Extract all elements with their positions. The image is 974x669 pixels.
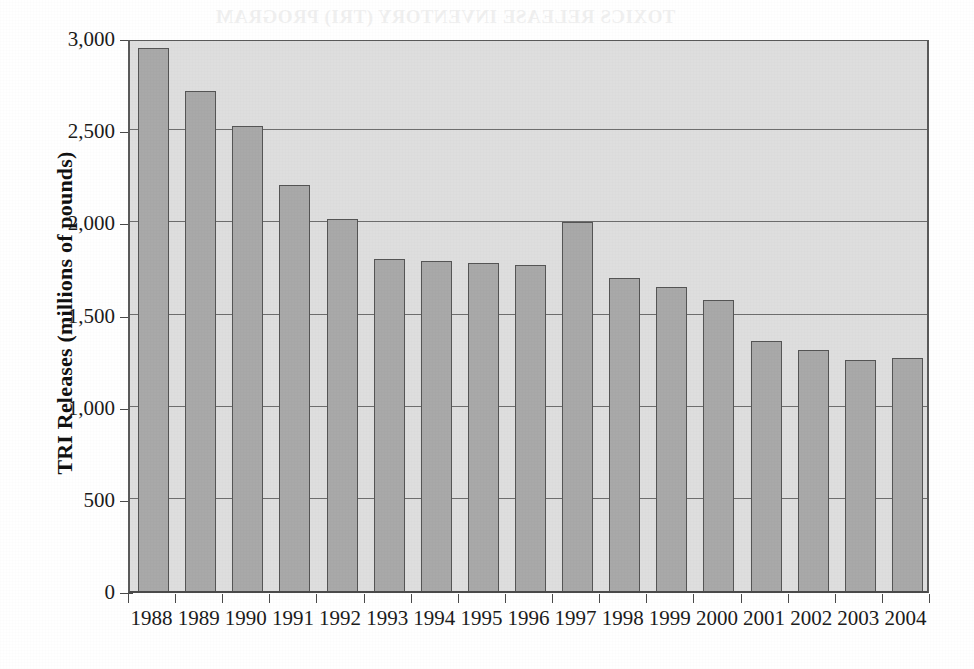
bar-2000 (703, 300, 734, 591)
x-tick-label-2004: 2004 (875, 608, 935, 629)
x-tick-mark-10 (599, 594, 600, 603)
scanned-page: TOXICS RELEASE INVENTORY (TRI) PROGRAM P… (0, 0, 974, 669)
bar-1988 (138, 48, 169, 591)
x-tick-mark-17 (929, 594, 930, 603)
bar-1991 (279, 185, 310, 591)
x-tick-mark-8 (505, 594, 506, 603)
x-tick-mark-6 (411, 594, 412, 603)
bar-1999 (656, 287, 687, 591)
x-tick-mark-14 (788, 594, 789, 603)
x-tick-mark-7 (458, 594, 459, 603)
bar-2002 (798, 350, 829, 591)
x-tick-mark-5 (364, 594, 365, 603)
x-tick-mark-11 (646, 594, 647, 603)
bar-1998 (609, 278, 640, 591)
bars-group (130, 41, 927, 591)
bar-1995 (468, 263, 499, 591)
bar-1989 (185, 91, 216, 591)
x-tick-mark-13 (741, 594, 742, 603)
x-tick-mark-9 (552, 594, 553, 603)
bar-1993 (374, 259, 405, 591)
bar-1994 (421, 261, 452, 591)
bar-1997 (562, 222, 593, 591)
x-tick-mark-3 (269, 594, 270, 603)
x-tick-mark-4 (316, 594, 317, 603)
bar-2001 (751, 341, 782, 591)
y-tick-label-2000: 2,000 (0, 213, 115, 234)
bar-2003 (845, 360, 876, 591)
y-tick-label-1000: 1,000 (0, 398, 115, 419)
bar-1990 (232, 126, 263, 591)
bar-chart: TRI Releases (millions of pounds) 05001,… (0, 0, 974, 669)
bar-2004 (892, 358, 923, 591)
bar-1996 (515, 265, 546, 591)
y-tick-label-500: 500 (0, 490, 115, 511)
x-tick-mark-16 (882, 594, 883, 603)
y-tick-label-1500: 1,500 (0, 306, 115, 327)
plot-area (128, 40, 929, 593)
y-tick-label-0: 0 (0, 582, 115, 603)
y-tick-label-3000: 3,000 (0, 29, 115, 50)
bar-1992 (327, 219, 358, 591)
x-tick-mark-15 (835, 594, 836, 603)
x-tick-mark-1 (175, 594, 176, 603)
y-tick-label-2500: 2,500 (0, 121, 115, 142)
x-tick-mark-0 (128, 594, 129, 603)
x-tick-mark-2 (222, 594, 223, 603)
y-tick-mark-0 (120, 593, 133, 594)
x-tick-mark-12 (693, 594, 694, 603)
